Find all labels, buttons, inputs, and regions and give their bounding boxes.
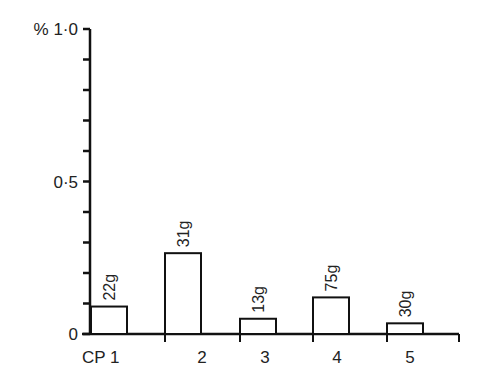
y-axis: 00·5% 1·0 [34, 20, 90, 344]
x-category-label: 2 [197, 348, 206, 367]
x-axis: CP 12345 [82, 334, 459, 367]
bar-annotation: 30g [397, 291, 414, 318]
x-category-label: 4 [332, 348, 341, 367]
y-tick-label: 0 [69, 325, 78, 344]
bar-1 [91, 307, 127, 334]
y-tick-label: % 1·0 [34, 20, 78, 39]
bar-4 [313, 297, 349, 334]
bar-annotation: 22g [101, 274, 118, 301]
bar-annotation: 75g [323, 265, 340, 292]
y-tick-label: 0·5 [53, 173, 78, 192]
bar-5 [387, 323, 423, 334]
bar-2 [165, 253, 201, 334]
bar-annotation: 13g [250, 286, 267, 313]
x-category-label: CP 1 [82, 348, 120, 367]
bar-3 [240, 319, 276, 334]
bar-annotation: 31g [175, 220, 192, 247]
bars: 22g31g13g75g30g [91, 220, 423, 334]
bar-chart: 00·5% 1·0 CP 12345 22g31g13g75g30g [0, 0, 488, 387]
x-category-label: 5 [405, 348, 414, 367]
x-category-label: 3 [260, 348, 269, 367]
